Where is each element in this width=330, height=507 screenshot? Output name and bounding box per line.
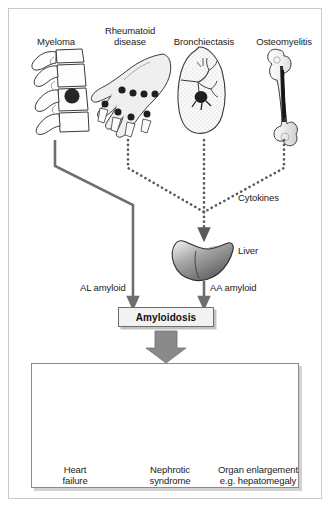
liver-small-icon xyxy=(172,241,233,281)
outcome-label-liver: Organ enlargement e.g. hepatomegaly xyxy=(206,464,310,486)
hand-icon xyxy=(91,54,170,137)
liver-label: Liver xyxy=(238,245,282,256)
al-amyloid-label: AL amyloid xyxy=(80,282,140,293)
cytokines-label: Cytokines xyxy=(238,192,308,203)
cause-label-myeloma: Myeloma xyxy=(18,36,94,47)
outcomes-block-arrow xyxy=(146,331,186,363)
lung-icon xyxy=(178,47,225,133)
vertebrae-icon xyxy=(32,49,89,135)
amyloidosis-label: Amyloidosis xyxy=(136,312,197,323)
cause-label-bronchiectasis: Bronchiectasis xyxy=(162,36,246,47)
cause-label-rheumatoid: Rheumatoid disease xyxy=(95,25,165,47)
al-amyloid-arrow xyxy=(55,140,133,303)
aa-amyloid-label: AA amyloid xyxy=(210,282,272,293)
amyloidosis-box: Amyloidosis xyxy=(118,307,214,327)
cytokine-line-rheumatoid xyxy=(128,140,204,212)
outcome-label-kidney: Nephrotic syndrome xyxy=(134,464,206,486)
figure-root: Myeloma Rheumatoid disease Bronchiectasi… xyxy=(0,0,330,507)
femur-bone-icon xyxy=(268,49,298,146)
outcome-label-heart: Heart failure xyxy=(43,464,107,486)
cause-label-osteomyelitis: Osteomyelitis xyxy=(243,36,325,47)
